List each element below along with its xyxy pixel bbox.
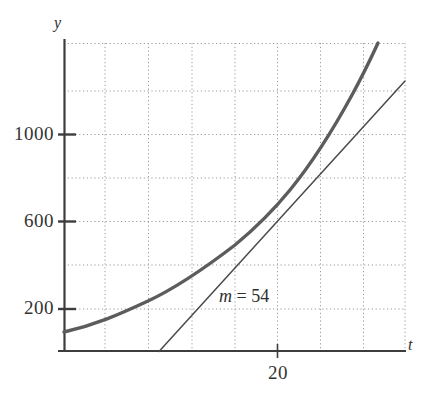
chart-figure: y t 1000 600 200 20 m = 54 (0, 0, 438, 396)
tangent-line (159, 81, 405, 352)
y-tick-label-200: 200 (0, 297, 54, 319)
slope-annotation: m = 54 (219, 286, 269, 307)
plot-area (0, 0, 438, 396)
slope-equals-sign: = (237, 286, 247, 306)
slope-symbol: m (219, 286, 232, 306)
y-axis-ticks (58, 135, 76, 310)
x-axis-label: t (408, 336, 412, 354)
y-tick-label-600: 600 (0, 210, 54, 232)
y-tick-label-1000: 1000 (0, 123, 54, 145)
y-axis-label: y (54, 14, 61, 32)
x-tick-label-20: 20 (255, 362, 301, 384)
slope-value: 54 (251, 286, 269, 306)
